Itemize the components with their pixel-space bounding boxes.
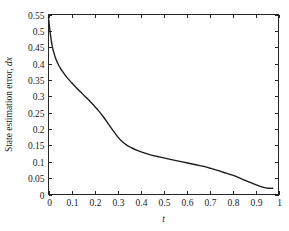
y-tick-label-6: 0.3 [33,92,45,102]
y-tick-label-7: 0.35 [28,76,45,86]
y-axis-title: State estimation error, dx [4,56,14,152]
y-tick-label-11: 0.55 [28,11,45,21]
chart-canvas: 00.10.20.30.40.50.60.70.80.9100.050.10.1… [0,0,289,231]
y-tick-label-10: 0.5 [33,27,45,37]
x-axis-title: t [162,214,165,224]
x-tick-label-8: 0.8 [228,198,240,208]
figure-container: 00.10.20.30.40.50.60.70.80.9100.050.10.1… [0,0,289,231]
x-tick-label-3: 0.3 [113,198,125,208]
y-tick-label-4: 0.2 [33,125,45,135]
y-tick-label-8: 0.4 [33,60,45,70]
y-tick-label-0: 0 [40,191,45,201]
y-tick-label-5: 0.25 [28,109,45,119]
x-tick-label-6: 0.6 [182,198,194,208]
y-tick-label-9: 0.45 [28,43,45,53]
y-tick-label-2: 0.1 [33,158,45,168]
x-tick-label-10: 1 [277,198,282,208]
x-tick-label-0: 0 [47,198,52,208]
y-tick-label-1: 0.05 [28,174,45,184]
x-tick-label-7: 0.7 [205,198,217,208]
x-tick-label-9: 0.9 [251,198,263,208]
x-tick-label-5: 0.5 [159,198,171,208]
x-tick-label-1: 0.1 [67,198,79,208]
y-tick-label-3: 0.15 [28,141,45,151]
x-tick-label-2: 0.2 [90,198,102,208]
x-tick-label-4: 0.4 [136,198,148,208]
